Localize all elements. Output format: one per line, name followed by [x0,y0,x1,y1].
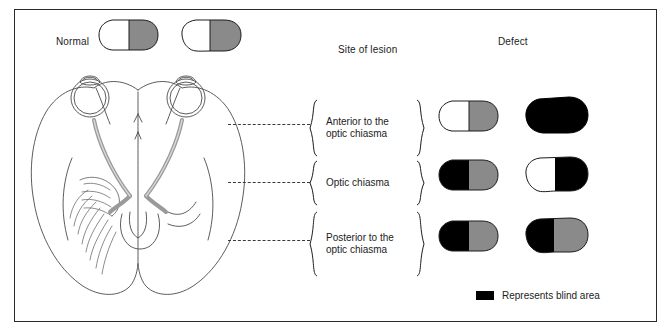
header-normal: Normal [56,36,89,48]
brace-left-posterior [308,211,318,277]
lesion-label-anterior: Anterior to the optic chiasma [326,116,389,140]
lesion-row-anterior: Anterior to the optic chiasma [308,99,426,157]
legend-swatch-blind-area [476,291,494,300]
connector-posterior [228,240,310,241]
brace-left-anterior [308,99,318,157]
lesion-label-chiasma: Optic chiasma [326,177,389,189]
defect-field-posterior-right [524,216,586,250]
connector-chiasma [228,182,310,183]
defect-field-anterior-right [524,95,586,129]
connector-anterior [228,124,310,125]
header-defect: Defect [498,36,528,48]
brace-left-chiasma [308,160,318,206]
legend: Represents blind area [476,290,600,301]
lesion-label-posterior: Posterior to the optic chiasma [326,232,394,256]
brace-right-anterior [416,99,426,157]
normal-field-right-eye [180,18,242,52]
brain-optic-pathway-diagram [18,62,258,302]
lesion-row-chiasma: Optic chiasma [308,160,426,206]
defect-field-anterior-left [438,99,500,133]
figure-visual-field-defects: Normal Site of lesion Defect [0,0,670,333]
brace-right-posterior [416,211,426,277]
lesion-row-posterior: Posterior to the optic chiasma [308,211,426,277]
normal-field-left-eye [98,18,160,52]
legend-label: Represents blind area [502,290,600,301]
header-site-of-lesion: Site of lesion [338,44,397,56]
brace-right-chiasma [416,160,426,206]
defect-field-posterior-left [438,219,500,253]
defect-field-chiasma-right [524,155,586,189]
defect-field-chiasma-left [438,158,500,192]
